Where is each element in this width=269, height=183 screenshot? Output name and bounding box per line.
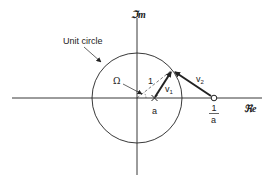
omega-pointer-arrow bbox=[123, 84, 142, 94]
imaginary-axis-label: ℑm bbox=[131, 9, 146, 20]
svg-text:v1: v1 bbox=[165, 84, 174, 95]
v1-label: v1 bbox=[165, 84, 174, 95]
unit-circle-label: Unit circle bbox=[63, 36, 103, 46]
svg-text:a: a bbox=[211, 115, 216, 125]
radius-label: 1 bbox=[148, 76, 153, 86]
svg-text:v2: v2 bbox=[196, 74, 205, 85]
omega-label: Ω bbox=[113, 76, 120, 86]
vector-v2 bbox=[175, 72, 211, 96]
point-reciprocal-circle-icon bbox=[211, 95, 217, 101]
reciprocal-a-label: 1 a bbox=[209, 103, 219, 125]
point-a-label: a bbox=[152, 106, 157, 116]
unit-circle-diagram: ℑm ℜe Unit circle Ω 1 v1 v2 a 1 a bbox=[0, 0, 269, 183]
svg-text:1: 1 bbox=[212, 103, 217, 113]
v2-label: v2 bbox=[196, 74, 205, 85]
unit-circle-pointer-arrow bbox=[84, 47, 101, 62]
omega-angle-arc bbox=[144, 93, 146, 99]
real-axis-label: ℜe bbox=[244, 103, 257, 114]
